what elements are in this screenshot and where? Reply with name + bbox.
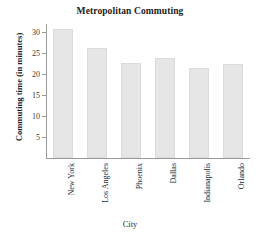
y-tick-label: 10 bbox=[32, 112, 40, 121]
x-tick-label: Dallas bbox=[169, 163, 178, 183]
x-axis-title: City bbox=[0, 219, 260, 229]
y-tick-mark bbox=[42, 95, 46, 96]
y-axis-line bbox=[46, 24, 47, 158]
y-axis-title: Commuting time (in minutes) bbox=[14, 12, 24, 162]
bar bbox=[53, 29, 73, 158]
bar bbox=[155, 58, 175, 159]
y-tick-label: 25 bbox=[32, 49, 40, 58]
y-tick-mark bbox=[42, 116, 46, 117]
bar bbox=[87, 48, 107, 158]
y-tick-mark bbox=[42, 74, 46, 75]
bar-chart: Metropolitan Commuting Commuting time (i… bbox=[0, 0, 260, 238]
bar bbox=[223, 64, 243, 158]
x-tick-label: Los Angeles bbox=[101, 163, 110, 203]
plot-area: 51015202530 New YorkLos AngelesPhoenixDa… bbox=[46, 24, 250, 158]
y-tick-label: 5 bbox=[36, 133, 40, 142]
y-tick-label: 20 bbox=[32, 70, 40, 79]
y-tick-label: 30 bbox=[32, 28, 40, 37]
y-tick-label: 15 bbox=[32, 91, 40, 100]
x-tick-label: Orlando bbox=[237, 163, 246, 189]
bar bbox=[189, 68, 209, 158]
y-tick-mark bbox=[42, 53, 46, 54]
x-tick-label: Indianapolis bbox=[203, 163, 212, 203]
y-tick-mark bbox=[42, 137, 46, 138]
y-tick-mark bbox=[42, 32, 46, 33]
bar bbox=[121, 63, 141, 158]
x-axis-line bbox=[46, 158, 250, 159]
x-tick-label: Phoenix bbox=[135, 163, 144, 189]
chart-title: Metropolitan Commuting bbox=[0, 6, 260, 16]
x-tick-label: New York bbox=[67, 163, 76, 195]
